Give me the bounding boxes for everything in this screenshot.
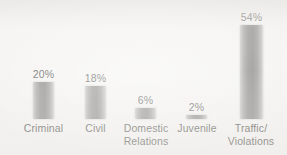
category-label-traffic-violations: Traffic/ Violations [217, 122, 285, 148]
value-label-domestic-relations: 6% [138, 94, 154, 106]
bar-domestic-relations-wrapper: 6% [135, 94, 156, 119]
bar-civil-wrapper: 18% [85, 72, 106, 119]
bar-criminal [33, 82, 54, 119]
value-label-juvenile: 2% [189, 101, 205, 113]
value-label-criminal: 20% [33, 68, 55, 80]
bar-criminal-wrapper: 20% [33, 68, 54, 119]
bar-traffic-violations-wrapper: 54% [240, 11, 263, 119]
value-label-traffic-violations: 54% [241, 11, 263, 23]
bar-juvenile [186, 115, 207, 119]
value-label-civil: 18% [85, 72, 107, 84]
plot-area: 20% Criminal 18% Civil 6% Domestic Relat… [0, 0, 287, 155]
bar-traffic-violations [240, 25, 263, 119]
bar-domestic-relations [135, 108, 156, 119]
bar-juvenile-wrapper: 2% [186, 101, 207, 119]
bar-civil [85, 86, 106, 119]
bar-chart: 20% Criminal 18% Civil 6% Domestic Relat… [0, 0, 287, 155]
